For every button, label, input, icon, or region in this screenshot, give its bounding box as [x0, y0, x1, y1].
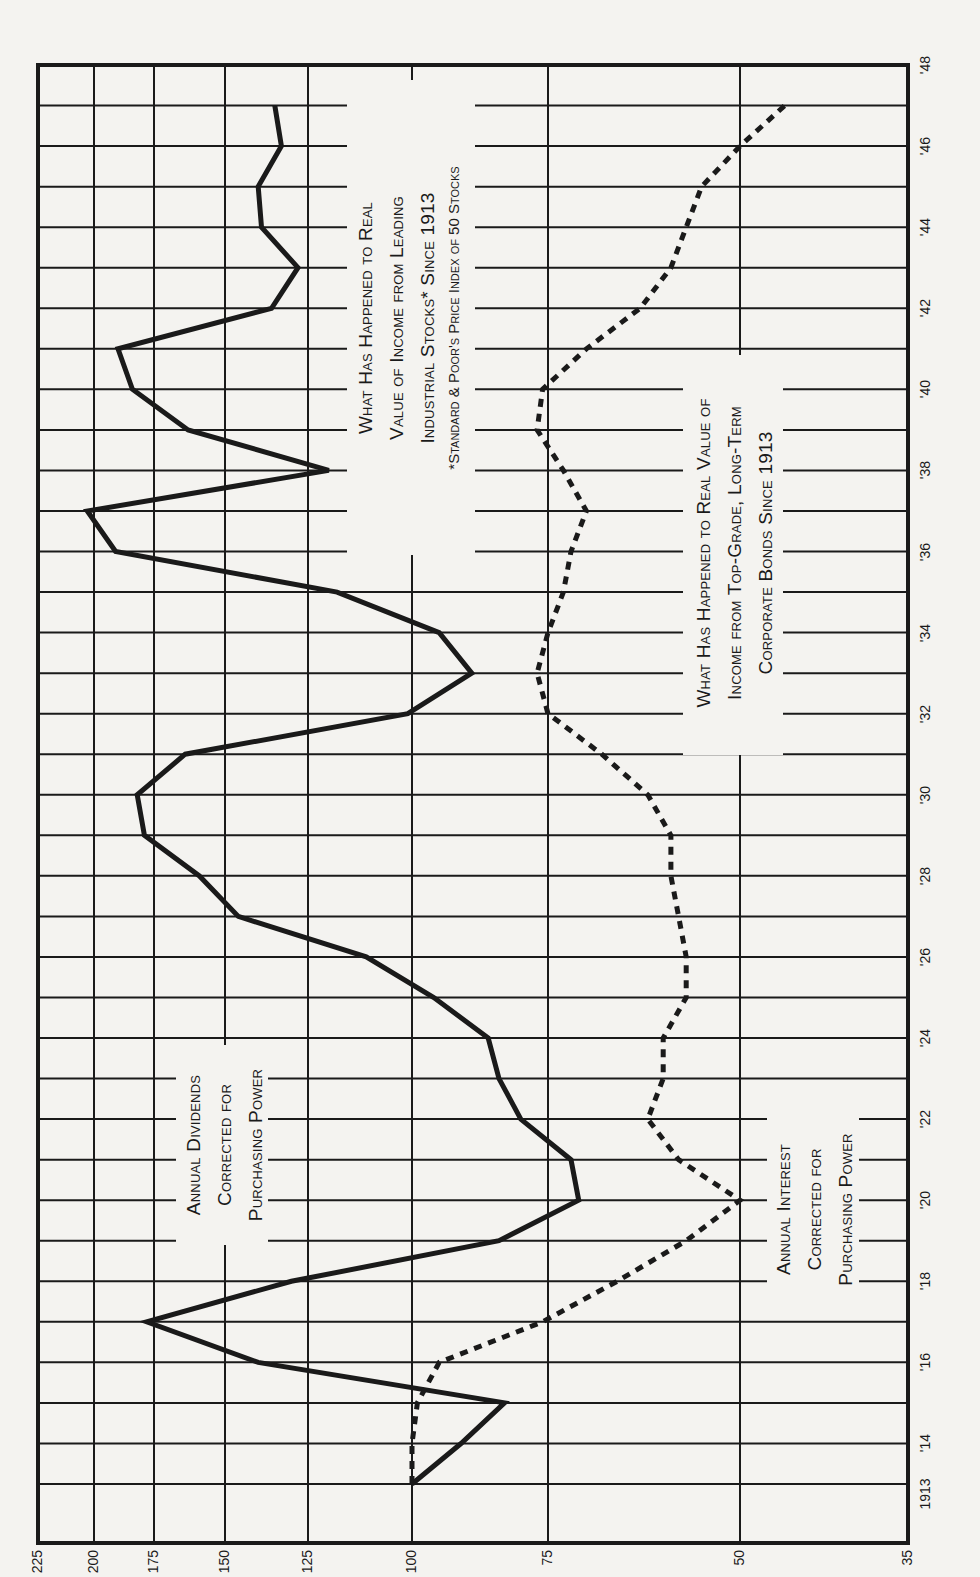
year-tick-label: '42	[917, 288, 933, 328]
stocks-title: What Has Happened to Real Value of Incom…	[350, 88, 465, 548]
value-tick-label: 125	[299, 1550, 315, 1577]
stocks-title-line-3: Industrial Stocks* Since 1913	[412, 88, 443, 548]
year-tick-label: '18	[917, 1261, 933, 1301]
year-tick-label: '14	[917, 1423, 933, 1463]
value-tick-label: 225	[29, 1550, 45, 1577]
dividends-label: Annual Dividends Corrected for Purchasin…	[178, 1050, 271, 1240]
value-tick-label: 175	[145, 1550, 161, 1577]
value-tick-label: 50	[731, 1550, 747, 1577]
dividends-label-line-1: Annual Dividends	[178, 1050, 209, 1240]
year-tick-label: '44	[917, 207, 933, 247]
bonds-title-line-3: Corporate Bonds Since 1913	[750, 358, 781, 748]
stocks-title-line-1: What Has Happened to Real	[350, 88, 381, 548]
year-tick-label: '20	[917, 1180, 933, 1220]
dividends-label-line-3: Purchasing Power	[240, 1050, 271, 1240]
bonds-title-line-1: What Has Happened to Real Value of	[688, 358, 719, 748]
interest-label: Annual Interest Corrected for Purchasing…	[768, 1107, 861, 1312]
year-tick-label: '38	[917, 450, 933, 490]
dividends-label-line-2: Corrected for	[209, 1050, 240, 1240]
interest-label-line-2: Corrected for	[799, 1107, 830, 1312]
year-tick-label: 1913	[917, 1474, 933, 1514]
value-tick-label: 150	[216, 1550, 232, 1577]
year-tick-label: '46	[917, 126, 933, 166]
year-tick-label: '36	[917, 532, 933, 572]
stocks-footnote: *Standard & Poor's Price Index of 50 Sto…	[443, 88, 465, 548]
year-tick-label: '28	[917, 856, 933, 896]
year-tick-label: '26	[917, 937, 933, 977]
stocks-title-line-2: Value of Income from Leading	[381, 88, 412, 548]
year-tick-label: '48	[917, 45, 933, 85]
value-tick-label: 200	[85, 1550, 101, 1577]
interest-label-line-3: Purchasing Power	[830, 1107, 861, 1312]
bonds-title: What Has Happened to Real Value of Incom…	[688, 358, 781, 748]
interest-label-line-1: Annual Interest	[768, 1107, 799, 1312]
year-tick-label: '24	[917, 1018, 933, 1058]
year-tick-label: '16	[917, 1342, 933, 1382]
value-tick-label: 35	[899, 1550, 915, 1577]
year-tick-label: '32	[917, 694, 933, 734]
bonds-title-line-2: Income from Top-Grade, Long-Term	[719, 358, 750, 748]
year-tick-label: '34	[917, 613, 933, 653]
year-tick-label: '40	[917, 369, 933, 409]
value-tick-label: 100	[403, 1550, 419, 1577]
year-tick-label: '30	[917, 775, 933, 815]
value-tick-label: 75	[539, 1550, 555, 1577]
year-tick-label: '22	[917, 1099, 933, 1139]
